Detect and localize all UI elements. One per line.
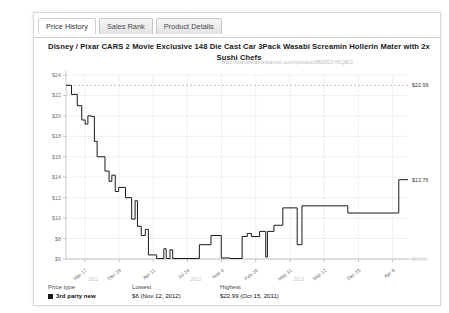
svg-text:Dec 29: Dec 29 bbox=[106, 267, 122, 282]
legend-header-highest: Highest bbox=[220, 283, 330, 292]
svg-text:$24: $24 bbox=[52, 72, 61, 78]
chart-gridlines bbox=[66, 75, 408, 259]
price-history-chart[interactable]: $24$22$20$18$16$14$12$10$8$6 Mar 17Dec 2… bbox=[34, 37, 440, 305]
price-series-3rd-party-new bbox=[66, 85, 408, 258]
legend-cell-highest: $22.99 (Oct 15, 2011) bbox=[220, 292, 330, 299]
svg-text:May 31: May 31 bbox=[277, 267, 294, 282]
svg-text:$18: $18 bbox=[52, 133, 61, 139]
tab-product-details[interactable]: Product Details bbox=[156, 18, 222, 34]
svg-text:Jul 24: Jul 24 bbox=[176, 267, 190, 280]
svg-text:Nov 4: Nov 4 bbox=[211, 267, 225, 280]
legend-header-lowest: Lowest bbox=[132, 283, 220, 292]
legend-price-type-label: 3rd party new bbox=[56, 292, 96, 299]
svg-text:2011: 2011 bbox=[88, 277, 99, 282]
svg-text:$13.76: $13.76 bbox=[412, 177, 429, 183]
svg-text:$22.99: $22.99 bbox=[412, 82, 429, 88]
svg-text:$12: $12 bbox=[52, 195, 61, 201]
svg-text:Feb 16: Feb 16 bbox=[243, 267, 259, 281]
svg-text:$16: $16 bbox=[52, 154, 61, 160]
svg-text:Mar 17: Mar 17 bbox=[72, 267, 88, 281]
legend-header-price-type: Price type bbox=[48, 283, 132, 292]
legend-header-row: Price type Lowest Highest bbox=[48, 283, 330, 292]
svg-text:$20: $20 bbox=[52, 113, 61, 119]
chart-guide-lines bbox=[66, 85, 408, 259]
svg-text:$8: $8 bbox=[55, 236, 61, 242]
tab-sales-rank[interactable]: Sales Rank bbox=[99, 18, 153, 34]
price-legend: Price type Lowest Highest 3rd party new … bbox=[48, 283, 348, 299]
price-history-panel: Price History Sales Rank Product Details… bbox=[33, 12, 441, 306]
x-axis-tick-labels: Mar 17Dec 29Apr 11Jul 24Nov 4Feb 16May 3… bbox=[72, 267, 396, 282]
y-axis-tick-labels: $24$22$20$18$16$14$12$10$8$6 bbox=[52, 72, 61, 262]
svg-text:$6.00: $6.00 bbox=[412, 256, 426, 262]
legend-table: Price type Lowest Highest 3rd party new … bbox=[48, 283, 330, 299]
legend-cell-price-type: 3rd party new bbox=[48, 292, 132, 299]
chart-annotations: $22.99$13.76$6.00 bbox=[412, 82, 429, 262]
legend-row: 3rd party new $6 (Nov 12, 2012) $22.99 (… bbox=[48, 292, 330, 299]
svg-text:$6: $6 bbox=[55, 256, 61, 262]
svg-text:Dec 25: Dec 25 bbox=[345, 267, 361, 282]
svg-text:2012: 2012 bbox=[191, 277, 202, 282]
tab-price-history[interactable]: Price History bbox=[38, 18, 96, 34]
svg-text:Apr 11: Apr 11 bbox=[141, 267, 156, 281]
svg-text:$14: $14 bbox=[52, 174, 61, 180]
x-axis-year-markers: 201120122013 bbox=[88, 277, 304, 282]
svg-text:$22: $22 bbox=[52, 92, 61, 98]
chart-container: Disney / Pixar CARS 2 Movie Exclusive 14… bbox=[34, 37, 440, 305]
tab-bar: Price History Sales Rank Product Details bbox=[34, 13, 440, 38]
screenshot-root: Price History Sales Rank Product Details… bbox=[0, 0, 449, 313]
tab-list: Price History Sales Rank Product Details bbox=[38, 18, 222, 34]
chart-axes bbox=[63, 71, 428, 262]
svg-text:Apr 8: Apr 8 bbox=[383, 267, 396, 279]
series-color-swatch-icon bbox=[48, 294, 53, 299]
svg-text:Sep 12: Sep 12 bbox=[311, 267, 327, 282]
legend-cell-lowest: $6 (Nov 12, 2012) bbox=[132, 292, 220, 299]
svg-text:2013: 2013 bbox=[293, 277, 304, 282]
svg-text:$10: $10 bbox=[52, 215, 61, 221]
